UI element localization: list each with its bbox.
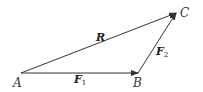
point-c-label: C [180,6,189,20]
vector-r-symbol: R [95,31,105,44]
vector-f1-subscript: 1 [82,79,86,87]
vector-f1-label: F1 [73,73,86,87]
point-b-label: B [132,76,142,90]
vector-f2-label: F2 [155,45,168,59]
vector-r-label: R [95,31,105,44]
vector-f2-arrow [138,13,176,73]
vector-diagram: A B C R F1 F2 [0,0,203,92]
vector-f2-subscript: 2 [164,51,168,59]
point-a-label: A [12,76,22,90]
